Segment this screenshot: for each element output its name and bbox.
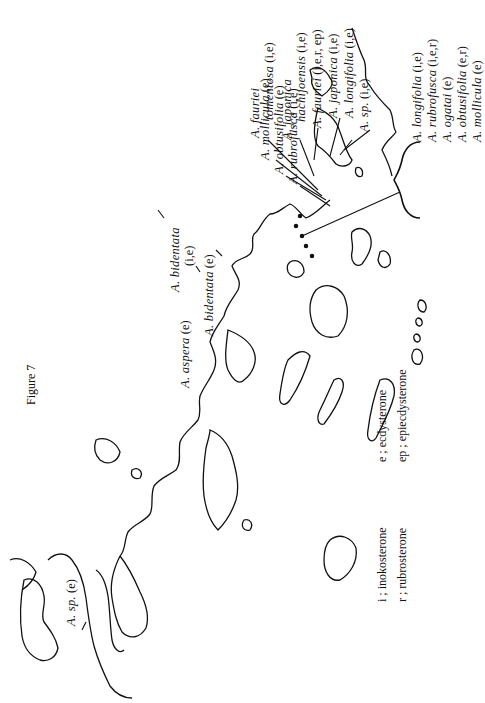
label-sp-ie: A. sp. (i,e) [357,78,371,132]
label-obtusifolia: A. obtusifolia (e) [272,85,286,174]
island-europe-2 [131,469,141,479]
legend: i ; inokosteronee ; ecdysterone r ; rubr… [372,369,412,602]
coastline-mediterranean [21,579,58,661]
island-philippines-2 [378,251,390,268]
label-aspera: A. aspera (e) [178,320,192,388]
island-java [318,379,343,425]
coastline-indochina [226,330,256,382]
island-europe-1 [95,439,120,463]
label-bidentata-e: A. bidentata (e) [202,254,216,336]
island-sumatra [280,352,310,405]
group-item: A. obtusifolia (e,r) [455,39,470,142]
island-borneo [310,286,347,337]
label-mollicula: A. mollicula (e) [258,78,272,160]
legend-row: i ; inokosteronee ; ecdysterone [372,369,392,602]
island-chain [418,300,426,312]
label-japonica: A. japonica (i,e) [326,33,340,118]
group-item: A. mollicula (e) [470,39,485,142]
island-small-1 [355,167,362,176]
group-item: A. rubrofusca (i,e,r) [425,39,440,142]
label-longifolia: A. longifolia (i,e) [342,28,356,118]
island-srilanka [242,520,251,531]
brace-group [394,142,420,218]
label-group: A. longifolia (i,e) A. rubrofusca (i,e,r… [410,39,485,142]
figure-title: Figure 7 [24,365,39,405]
label-fauriei: A. fauriei (i,e,r, ep) [310,29,324,128]
coastline-arabia [111,556,147,637]
island-philippines-luzon [351,229,371,266]
label-bidentata-ie: A. bidentata (i,e) [168,227,196,292]
legend-row: r ; rubrosteroneep ; epiecdysterone [392,369,412,602]
island-southern-1 [324,536,356,580]
pointer-lines [82,118,400,630]
coastline-red-sea [96,570,124,652]
coastline-mainland-asia [120,200,330,556]
island-taiwan [287,261,304,278]
coastline-india [203,430,237,530]
group-item: A. longifolia (i,e) [410,39,425,142]
label-sp-e: A. sp. (e) [64,579,78,626]
label-rubrofusca: A. rubrofusca (i,e) [286,88,300,184]
group-item: A. ogatai (e) [440,39,455,142]
